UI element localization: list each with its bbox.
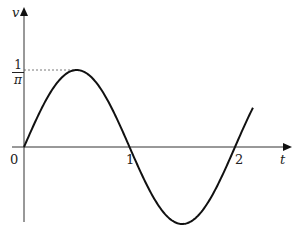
chart-canvas (0, 0, 299, 235)
t-axis-arrow-icon (283, 143, 292, 151)
tick-label-1: 1 (126, 153, 134, 166)
v-axis-label: v (12, 6, 19, 19)
peak-denominator: π (11, 74, 25, 86)
tick-label-2: 2 (235, 153, 243, 166)
v-axis-arrow-icon (20, 7, 28, 16)
peak-value-label: 1 π (11, 59, 25, 86)
origin-label: 0 (10, 153, 18, 166)
peak-numerator: 1 (11, 59, 25, 71)
t-axis-label: t (280, 153, 285, 166)
